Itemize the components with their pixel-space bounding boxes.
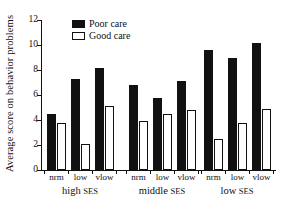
legend-label-good-care: Good care	[89, 30, 130, 41]
legend-item-good-care: Good care	[72, 30, 162, 41]
x-group-label-text: middle	[139, 185, 171, 196]
x-sub-label-vlow: vlow	[173, 172, 200, 183]
plot-area: 12 10 8 6 4 2 0	[41, 20, 276, 170]
bar-good-care-high-ses-vlow	[105, 106, 114, 170]
y-axis-title-container: Average score on behavior problems	[0, 0, 20, 186]
bar-poor-care-middle-ses-low	[153, 98, 162, 171]
bar-poor-care-high-ses-nrm	[47, 114, 56, 170]
chart-legend: Poor care Good care	[72, 18, 162, 42]
bar-poor-care-high-ses-vlow	[95, 68, 104, 171]
bar-poor-care-middle-ses-nrm	[129, 85, 138, 170]
y-tick-label: 6	[33, 88, 38, 100]
x-sub-label-nrm: nrm	[43, 172, 70, 183]
x-group-label-low-ses: low SES	[198, 184, 276, 198]
y-tick-label: 8	[33, 63, 38, 75]
x-sub-label-low: low	[224, 172, 251, 183]
x-sub-label-low: low	[149, 172, 176, 183]
y-axis-title: Average score on behavior problems	[5, 14, 16, 171]
x-group-label-high-ses: high SES	[41, 184, 119, 198]
x-group-label-suffix: SES	[171, 186, 186, 196]
bar-good-care-middle-ses-vlow	[187, 110, 196, 170]
bar-poor-care-high-ses-low	[71, 79, 80, 170]
x-sub-label-vlow: vlow	[91, 172, 118, 183]
x-group-label-text: high	[62, 185, 83, 196]
x-sub-label-low: low	[67, 172, 94, 183]
y-tick-label: 0	[33, 163, 38, 175]
bar-good-care-low-ses-vlow	[262, 109, 271, 170]
x-group-label-middle-ses: middle SES	[123, 184, 201, 198]
legend-swatch-good-care-icon	[72, 32, 85, 40]
x-axis-line	[41, 170, 276, 171]
y-tick-label: 4	[33, 113, 38, 125]
bar-good-care-low-ses-nrm	[214, 139, 223, 170]
x-group-label-text: low	[220, 185, 238, 196]
bar-good-care-middle-ses-nrm	[139, 121, 148, 170]
x-sub-label-nrm: nrm	[200, 172, 227, 183]
legend-item-poor-care: Poor care	[72, 18, 162, 29]
bar-good-care-high-ses-nrm	[57, 123, 66, 171]
bar-poor-care-low-ses-vlow	[252, 43, 261, 171]
y-tick-label: 10	[29, 38, 39, 50]
bar-poor-care-low-ses-low	[228, 58, 237, 171]
bar-good-care-high-ses-low	[81, 144, 90, 170]
y-tick-label: 2	[33, 138, 38, 150]
bar-chart-figure: Average score on behavior problems 12 10…	[0, 0, 282, 200]
x-group-label-suffix: SES	[239, 186, 254, 196]
bar-poor-care-low-ses-nrm	[204, 50, 213, 170]
x-group-label-suffix: SES	[83, 186, 98, 196]
bar-series-container	[41, 20, 276, 170]
x-sub-label-nrm: nrm	[125, 172, 152, 183]
y-tick-label: 12	[29, 13, 39, 25]
legend-label-poor-care: Poor care	[89, 18, 127, 29]
x-axis-labels: nrmlowvlowhigh SESnrmlowvlowmiddle SESnr…	[41, 172, 276, 200]
bar-good-care-low-ses-low	[238, 123, 247, 171]
bar-good-care-middle-ses-low	[163, 114, 172, 170]
legend-swatch-poor-care-icon	[72, 20, 85, 28]
bar-poor-care-middle-ses-vlow	[177, 81, 186, 170]
x-sub-label-vlow: vlow	[248, 172, 275, 183]
